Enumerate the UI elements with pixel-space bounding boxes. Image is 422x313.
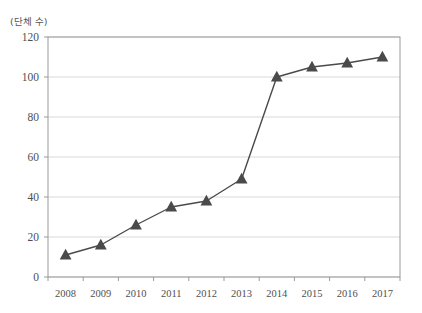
x-tick-label: 2015 [302,288,323,299]
x-tick-label: 2016 [337,288,358,299]
x-tick-label: 2012 [196,288,217,299]
x-tick-label: 2017 [372,288,393,299]
y-axis-tick-labels: 020406080100120 [22,31,48,283]
y-tick-label: 80 [28,111,40,123]
data-point-marker [201,195,213,206]
y-tick-label: 0 [33,271,39,283]
x-axis-tick-labels: 2008200920102011201220132014201520162017 [55,288,393,299]
x-tick-label: 2011 [161,288,182,299]
x-tick-label: 2013 [231,288,252,299]
y-tick-label: 100 [22,71,40,83]
y-tick-label: 20 [28,231,40,243]
data-point-marker [236,173,248,184]
data-line [66,57,383,255]
x-tick-label: 2009 [90,288,111,299]
x-tick-label: 2014 [266,288,288,299]
y-tick-label: 60 [28,151,40,163]
line-chart-plot: 020406080100120 200820092010201120122013… [0,0,422,313]
chart-figure: (단체 수) 020406080100120 20082009201020112… [0,0,422,313]
y-tick-label: 120 [22,31,40,43]
x-tick-label: 2008 [55,288,76,299]
y-tick-label: 40 [28,191,40,203]
x-axis-tick-marks [48,277,400,281]
series-line-path [66,57,383,255]
data-point-marker [95,239,107,250]
data-point-marker [377,51,389,62]
series-markers-group [60,51,389,260]
x-tick-label: 2010 [126,288,147,299]
data-point-marker [130,219,142,230]
